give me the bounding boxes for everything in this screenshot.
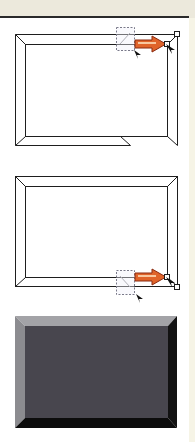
frame-rendered-bevel <box>0 0 195 442</box>
